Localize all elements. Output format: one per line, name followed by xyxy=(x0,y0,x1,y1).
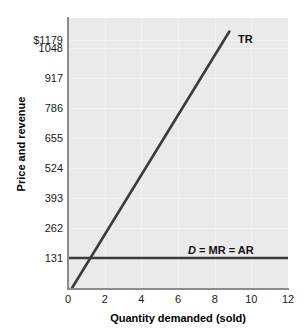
series-label-demand-italic: D xyxy=(188,244,196,256)
y-tick-label: 917 xyxy=(5,73,63,84)
y-axis-title: Price and revenue xyxy=(15,79,27,209)
series-label-demand-rest: = MR = AR xyxy=(196,244,254,256)
series-label-demand: D = MR = AR xyxy=(188,244,254,256)
chart-figure: TR D = MR = AR 131 262 393 524 655 786 9… xyxy=(0,0,307,336)
x-tick-label: 4 xyxy=(126,294,156,305)
series-lines xyxy=(68,18,288,288)
y-tick-label: 131 xyxy=(5,253,63,264)
x-tick-label: 0 xyxy=(53,294,83,305)
x-tick-label: 6 xyxy=(163,294,193,305)
plot-area: TR D = MR = AR xyxy=(68,18,288,288)
series-label-tr: TR xyxy=(238,33,253,45)
y-tick-label: 524 xyxy=(5,163,63,174)
y-tick-label: 393 xyxy=(5,193,63,204)
y-tick-label: 786 xyxy=(5,103,63,114)
y-tick-label: 655 xyxy=(5,133,63,144)
y-tick-label: $1179 xyxy=(5,35,63,46)
x-tick-label: 10 xyxy=(236,294,266,305)
x-axis-title: Quantity demanded (sold) xyxy=(68,312,288,324)
x-axis-line xyxy=(67,288,289,290)
y-axis-line xyxy=(67,17,69,289)
x-tick-label: 2 xyxy=(90,294,120,305)
x-tick-label: 8 xyxy=(200,294,230,305)
y-tick-label: 262 xyxy=(5,223,63,234)
x-tick-label: 12 xyxy=(273,294,303,305)
y-tick-labels: 131 262 393 524 655 786 917 1048 $1179 xyxy=(0,0,63,336)
